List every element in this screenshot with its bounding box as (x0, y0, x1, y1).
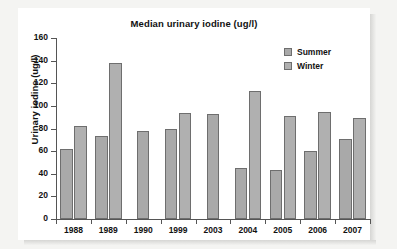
y-axis-line (56, 38, 57, 220)
y-axis-title: Urinary iodine (ug/l) (29, 20, 40, 180)
bar-winter-2005 (284, 116, 297, 219)
y-tick-label: 0 (16, 213, 48, 223)
bar-summer-1988 (60, 149, 73, 219)
bar-winter-2007 (353, 118, 366, 219)
x-tick-label: 2007 (331, 225, 375, 235)
panel-shadow-bottom (24, 240, 376, 245)
legend-swatch-icon (284, 62, 292, 70)
bar-summer-1990 (137, 131, 150, 219)
bar-summer-2006 (304, 151, 317, 219)
x-tick (56, 219, 57, 224)
chart-legend: SummerWinter (284, 46, 331, 74)
bar-summer-2004 (235, 168, 248, 219)
bar-summer-2003 (207, 114, 220, 219)
y-tick (51, 61, 56, 62)
bar-winter-1988 (74, 126, 87, 219)
y-tick-label: 20 (16, 190, 48, 200)
x-tick (230, 219, 231, 224)
bar-summer-2005 (270, 170, 283, 219)
x-tick (126, 219, 127, 224)
bar-winter-2004 (249, 91, 262, 219)
figure-panel: Median urinary iodine (ug/l) 02040608010… (0, 0, 397, 249)
y-tick (51, 106, 56, 107)
y-tick (51, 83, 56, 84)
bar-summer-2007 (339, 139, 352, 219)
bar-winter-2006 (318, 112, 331, 219)
bar-winter-1989 (109, 63, 122, 219)
x-tick (196, 219, 197, 224)
y-tick (51, 151, 56, 152)
bar-winter-1999 (179, 113, 192, 219)
y-tick (51, 196, 56, 197)
x-tick (300, 219, 301, 224)
x-tick (335, 219, 336, 224)
y-tick (51, 129, 56, 130)
x-tick (91, 219, 92, 224)
chart-card: Median urinary iodine (ug/l) 02040608010… (18, 8, 370, 240)
x-tick (161, 219, 162, 224)
panel-shadow-right (370, 14, 376, 242)
legend-swatch-icon (284, 48, 292, 56)
y-tick (51, 38, 56, 39)
x-tick (265, 219, 266, 224)
y-tick (51, 174, 56, 175)
x-tick (370, 219, 371, 224)
bar-summer-1999 (165, 129, 178, 220)
legend-item-summer: Summer (284, 46, 331, 58)
bar-summer-1989 (95, 136, 108, 219)
x-axis-line (56, 219, 370, 220)
legend-item-winter: Winter (284, 60, 331, 72)
legend-label: Winter (297, 61, 323, 71)
chart-title: Median urinary iodine (ug/l) (18, 18, 370, 29)
legend-label: Summer (297, 47, 331, 57)
